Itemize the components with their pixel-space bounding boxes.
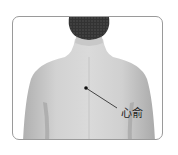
- back-figure-illustration: [13, 17, 163, 140]
- hair-shape: [69, 17, 110, 40]
- acupoint-marker: [84, 86, 88, 90]
- illustration-frame: 心俞: [12, 16, 163, 140]
- acupoint-label: 心俞: [121, 104, 142, 120]
